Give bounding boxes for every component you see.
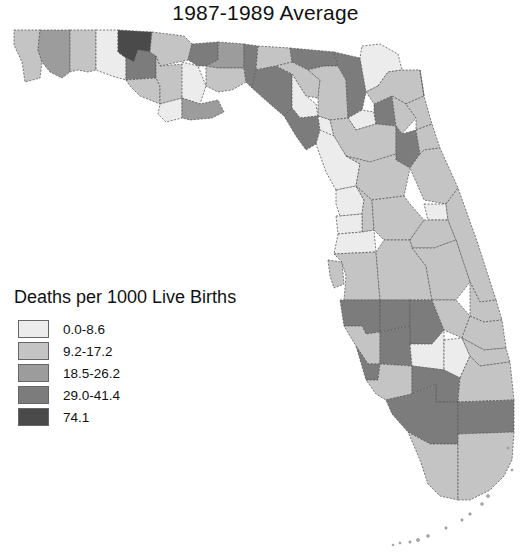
legend-label: 18.5-26.2 — [63, 366, 120, 381]
legend-item: 9.2-17.2 — [18, 340, 236, 362]
legend-swatch — [18, 320, 49, 338]
county-bay — [126, 78, 160, 104]
county-liberty — [182, 62, 206, 104]
legend-label: 74.1 — [63, 410, 89, 425]
map-legend: Deaths per 1000 Live Births 0.0-8.6 9.2-… — [14, 287, 236, 428]
county-okaloosa — [70, 30, 96, 72]
county-escambia — [14, 30, 42, 82]
legend-swatch — [18, 408, 49, 426]
county-dade — [458, 432, 514, 500]
legend-swatch — [18, 364, 49, 382]
legend-item: 0.0-8.6 — [18, 318, 236, 340]
legend-item: 29.0-41.4 — [18, 384, 236, 406]
county-broward — [458, 400, 514, 434]
florida-county-map — [0, 0, 531, 558]
legend-item: 18.5-26.2 — [18, 362, 236, 384]
county-franklin — [182, 98, 224, 120]
legend-swatch — [18, 386, 49, 404]
county-hernando — [336, 214, 362, 234]
county-pinellas — [328, 260, 344, 288]
county-wakulla — [206, 66, 246, 92]
county-seminole — [424, 204, 448, 220]
legend-item: 74.1 — [18, 406, 236, 428]
legend-label: 29.0-41.4 — [63, 388, 120, 403]
county-taylor — [252, 66, 292, 116]
county-santa-rosa — [38, 30, 70, 78]
legend-title: Deaths per 1000 Live Births — [14, 287, 236, 308]
legend-swatch — [18, 342, 49, 360]
legend-label: 9.2-17.2 — [63, 344, 113, 359]
legend-label: 0.0-8.6 — [63, 322, 105, 337]
county-desoto — [380, 326, 412, 366]
